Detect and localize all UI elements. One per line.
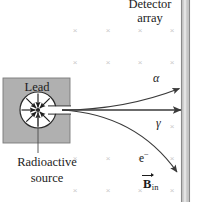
bfield-subscript: in xyxy=(152,182,159,192)
detector-array-bar xyxy=(181,0,190,202)
electron-label: e− xyxy=(139,152,149,164)
magnetic-field-vector-label: Bin xyxy=(143,178,158,191)
detector-array-label-line1: Detector xyxy=(128,0,171,11)
electron-charge-superscript: − xyxy=(144,149,149,159)
alpha-trajectory xyxy=(62,89,180,111)
detector-array-label-line2: array xyxy=(103,11,197,25)
radioactive-source-label: Radioactive source xyxy=(0,154,94,186)
detector-array-label: Detector array xyxy=(103,0,197,25)
bfield-symbol: B xyxy=(143,178,151,191)
gamma-ray-label: γ xyxy=(156,117,161,130)
radioactive-source-label-line2: source xyxy=(0,170,94,186)
radioactive-source-label-line1: Radioactive xyxy=(17,155,77,169)
lead-label: Lead xyxy=(9,81,65,94)
physics-diagram-radioactive-decay: ××××××××××××××××× xyxy=(0,0,197,202)
alpha-particle-label: α xyxy=(153,72,159,85)
